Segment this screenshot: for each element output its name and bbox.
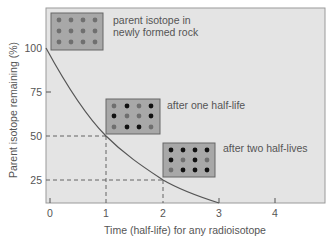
box-parent-isotope [51, 13, 103, 50]
y-tick-100: 100 [24, 42, 42, 54]
x-tick-3: 3 [216, 207, 222, 219]
box-two-half-lives [163, 143, 215, 177]
box1-label-line2: newly formed rock [113, 26, 199, 38]
box3-label: after two half-lives [223, 142, 308, 154]
x-tick-2: 2 [160, 207, 166, 219]
box2-label: after one half-life [167, 99, 245, 111]
y-tick-labels: 100 75 50 25 [24, 42, 42, 186]
y-tick-25: 25 [30, 174, 42, 186]
x-tick-1: 1 [103, 207, 109, 219]
half-life-diagram: parent isotope in newly formed rock afte… [0, 0, 333, 241]
y-axis-title: Parent isotope remaining (%) [7, 42, 19, 178]
y-tick-75: 75 [30, 86, 42, 98]
x-axis-title: Time (half-life) for any radioisotope [104, 224, 266, 236]
box-one-half-life [106, 99, 160, 134]
x-tick-4: 4 [272, 207, 278, 219]
box1-label-line1: parent isotope in [113, 14, 191, 26]
x-tick-labels: 0 1 2 3 4 [47, 207, 278, 219]
y-tick-50: 50 [30, 130, 42, 142]
x-tick-0: 0 [47, 207, 53, 219]
